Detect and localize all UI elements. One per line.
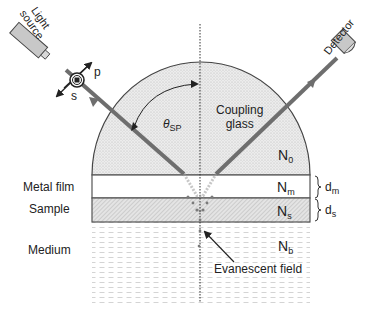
index-ns-label: Ns	[277, 204, 292, 218]
thickness-brace-sample	[315, 199, 321, 221]
thickness-ds-label: ds	[325, 204, 336, 216]
thickness-dm-label: dm	[325, 181, 339, 193]
metal-film-label: Metal film	[23, 181, 74, 193]
index-nb-label: Nb	[278, 239, 293, 253]
polarization-p-label: p	[94, 66, 101, 78]
coupling-glass-label: Coupling glass	[216, 104, 263, 130]
evanescent-field-label: Evanescent field	[213, 263, 303, 275]
spr-diagram	[0, 0, 376, 316]
medium-label: Medium	[28, 244, 71, 256]
index-n0-label: N0	[278, 148, 293, 162]
sample-label: Sample	[29, 203, 70, 215]
polarization-s-label: s	[71, 90, 77, 102]
thickness-brace-metal	[315, 176, 321, 198]
angle-theta-sp-label: θSP	[163, 118, 182, 130]
index-nm-label: Nm	[277, 180, 295, 194]
